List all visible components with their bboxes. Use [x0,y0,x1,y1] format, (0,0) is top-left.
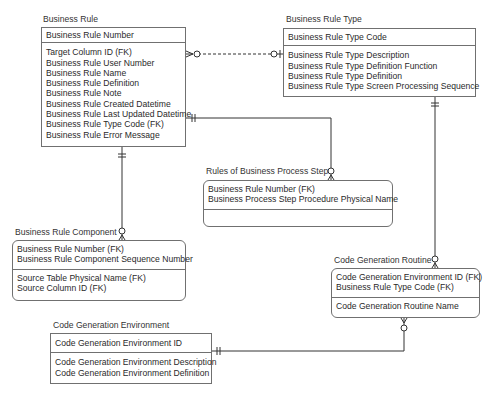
attribute: Source Column ID (FK) [17,283,181,293]
attribute-section: Code Generation Environment Description … [51,353,211,380]
attribute: Business Rule Type Definition [288,71,471,81]
attribute-section: Target Column ID (FK) Business Rule User… [42,43,185,142]
entity-title: Rules of Business Process Step [206,166,328,176]
entity-business-rule-type[interactable]: Business Rule Type Code Business Rule Ty… [283,28,476,97]
attribute: Business Rule Error Message [46,130,181,140]
primary-key-section: Business Rule Number (FK) Business Proce… [204,181,392,210]
attribute: Business Rule Type Screen Processing Seq… [288,81,471,91]
attribute: Business Rule Last Updated Datetime [46,109,181,119]
primary-key-section: Business Rule Number (FK) Business Rule … [13,241,185,270]
attribute: Business Rule Type Definition Function [288,61,471,71]
entity-title: Business Rule Type [286,14,362,24]
attribute: Business Rule Note [46,88,181,98]
key-attribute: Business Rule Component Sequence Number [17,254,181,264]
key-attribute: Code Generation Environment ID [55,338,207,348]
attribute: Source Table Physical Name (FK) [17,273,181,283]
key-attribute: Business Rule Number [46,30,181,40]
attribute: Business Rule Type Description [288,50,471,60]
attribute: Code Generation Environment Definition [55,368,207,378]
entity-title: Code Generation Routine [334,255,431,265]
entity-title: Business Rule Component [15,227,117,237]
attribute: Code Generation Environment Description [55,357,207,367]
key-attribute: Business Process Step Procedure Physical… [208,194,388,204]
key-attribute: Business Rule Number (FK) [208,184,388,194]
attribute: Business Rule Type Code (FK) [46,119,181,129]
rel-env-to-routine [212,318,407,355]
attribute: Code Generation Routine Name [336,301,475,311]
entity-rules-of-business-process-step[interactable]: Business Rule Number (FK) Business Proce… [203,180,393,227]
attribute-section [204,210,392,214]
key-attribute: Business Rule Number (FK) [17,244,181,254]
attribute-section: Code Generation Routine Name [332,298,479,313]
rel-rule-to-component [118,147,126,240]
key-attribute: Code Generation Environment ID (FK) [336,272,475,282]
attribute: Business Rule Created Datetime [46,99,181,109]
attribute-section: Business Rule Type Description Business … [284,46,475,93]
key-attribute: Business Rule Type Code [288,32,471,42]
entity-title: Code Generation Environment [53,320,169,330]
entity-business-rule[interactable]: Business Rule Number Target Column ID (F… [41,27,186,147]
attribute: Business Rule Name [46,68,181,78]
attribute: Target Column ID (FK) [46,47,181,57]
rel-type-to-rule [186,50,283,58]
primary-key-section: Code Generation Environment ID (FK) Busi… [332,269,479,298]
entity-business-rule-component[interactable]: Business Rule Number (FK) Business Rule … [12,240,186,301]
entity-code-generation-routine[interactable]: Code Generation Environment ID (FK) Busi… [331,268,480,318]
rel-type-to-routine [431,97,439,268]
attribute-section: Source Table Physical Name (FK) Source C… [13,270,185,296]
attribute: Business Rule Definition [46,78,181,88]
primary-key-section: Code Generation Environment ID [51,334,211,353]
primary-key-section: Business Rule Type Code [284,29,475,46]
entity-code-generation-environment[interactable]: Code Generation Environment ID Code Gene… [50,333,212,384]
primary-key-section: Business Rule Number [42,28,185,43]
entity-title: Business Rule [43,14,98,24]
attribute: Business Rule User Number [46,58,181,68]
key-attribute: Business Rule Type Code (FK) [336,282,475,292]
